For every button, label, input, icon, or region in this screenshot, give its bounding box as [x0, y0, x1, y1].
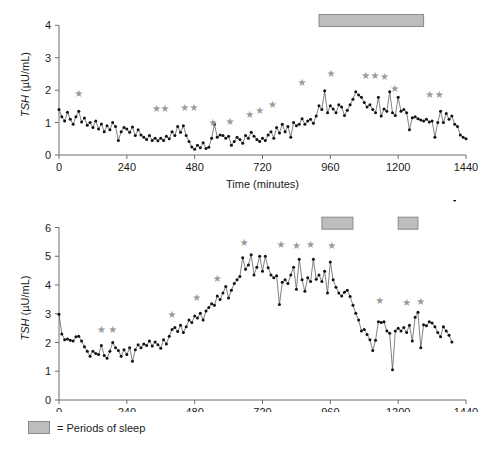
y-tick-label: 0	[45, 394, 51, 406]
x-tick-label: 240	[118, 161, 136, 173]
data-point	[224, 137, 227, 140]
data-point	[123, 348, 126, 351]
data-point	[431, 119, 434, 122]
pulse-marker-star: ★	[108, 324, 117, 335]
data-point	[131, 360, 134, 363]
data-point	[292, 266, 295, 269]
data-point	[216, 294, 219, 297]
data-point	[100, 344, 103, 347]
pulse-marker-star: ★	[268, 99, 277, 110]
chart-svg-top: 01234024048072096012001440Time (minutes)…	[0, 0, 493, 200]
data-point	[66, 338, 69, 341]
pulse-marker-star: ★	[326, 68, 335, 79]
pulse-marker-star: ★	[390, 83, 399, 94]
data-point	[123, 126, 126, 129]
data-point	[354, 312, 357, 315]
data-point	[236, 278, 239, 281]
data-point	[210, 137, 213, 140]
data-point	[357, 319, 360, 322]
data-point	[97, 128, 100, 131]
data-point	[363, 101, 366, 104]
data-point	[320, 108, 323, 111]
data-point	[111, 121, 114, 124]
data-point	[433, 325, 436, 328]
data-point	[148, 134, 151, 137]
data-point	[193, 148, 196, 151]
data-point	[399, 330, 402, 333]
data-point	[450, 340, 453, 343]
data-point	[295, 288, 298, 291]
data-point	[337, 103, 340, 106]
data-point	[216, 136, 219, 139]
data-point	[230, 144, 233, 147]
data-point	[380, 321, 383, 324]
data-point	[312, 258, 315, 261]
y-axis-title: TSH (µU/mL)	[19, 52, 31, 117]
data-point	[221, 292, 224, 295]
data-point	[168, 137, 171, 140]
data-point	[377, 320, 380, 323]
figure-container: 01234024048072096012001440Time (minutes)…	[0, 0, 493, 457]
data-point	[162, 338, 165, 341]
data-point	[267, 133, 270, 136]
data-point	[368, 103, 371, 106]
data-point	[363, 328, 366, 331]
data-point	[349, 103, 352, 106]
data-point	[340, 294, 343, 297]
y-tick-label: 1	[45, 365, 51, 377]
data-point	[89, 355, 92, 358]
x-tick-label: 960	[321, 161, 339, 173]
data-point	[103, 354, 106, 357]
chart-svg-bottom: 0123456024048072096012001440Time (minute…	[0, 200, 493, 412]
data-point	[442, 325, 445, 328]
data-point	[134, 134, 137, 137]
x-tick-label: 0	[56, 161, 62, 173]
sleep-period-bar	[398, 217, 418, 229]
data-point	[258, 255, 261, 258]
data-point	[80, 120, 83, 123]
data-point	[397, 96, 400, 99]
data-point	[74, 115, 77, 118]
data-point	[425, 324, 428, 327]
x-tick-label: 720	[253, 406, 271, 412]
pulse-marker-star: ★	[161, 103, 170, 114]
data-point	[349, 295, 352, 298]
data-point	[445, 112, 448, 115]
data-point	[125, 353, 128, 356]
legend-label: = Periods of sleep	[57, 422, 145, 434]
data-point	[188, 319, 191, 322]
data-point	[202, 141, 205, 144]
data-point	[60, 332, 63, 335]
data-point	[190, 145, 193, 148]
data-point	[385, 330, 388, 333]
y-tick-label: 4	[45, 279, 51, 291]
data-point	[86, 350, 89, 353]
pulse-marker-star: ★	[425, 89, 434, 100]
pulse-marker-star: ★	[180, 102, 189, 113]
data-point	[250, 253, 253, 256]
data-point	[272, 137, 275, 140]
data-point	[332, 107, 335, 110]
data-point	[422, 119, 425, 122]
data-point	[117, 349, 120, 352]
y-tick-label: 3	[45, 308, 51, 320]
data-point	[72, 340, 75, 343]
data-point	[416, 117, 419, 120]
data-point	[380, 115, 383, 118]
data-point	[185, 325, 188, 328]
data-point	[63, 119, 66, 122]
data-point	[383, 107, 386, 110]
data-point	[301, 278, 304, 281]
data-point	[139, 346, 142, 349]
chart-panel-bottom: 0123456024048072096012001440Time (minute…	[0, 200, 493, 412]
data-point	[250, 131, 253, 134]
data-point	[137, 128, 140, 131]
data-point	[69, 339, 72, 342]
pulse-marker-star: ★	[226, 116, 235, 127]
data-point	[453, 200, 456, 202]
data-point	[236, 136, 239, 139]
x-tick-label: 960	[321, 406, 339, 412]
data-point	[405, 111, 408, 114]
y-axis-title-units: (µU/mL)	[19, 275, 31, 318]
data-point	[318, 273, 321, 276]
